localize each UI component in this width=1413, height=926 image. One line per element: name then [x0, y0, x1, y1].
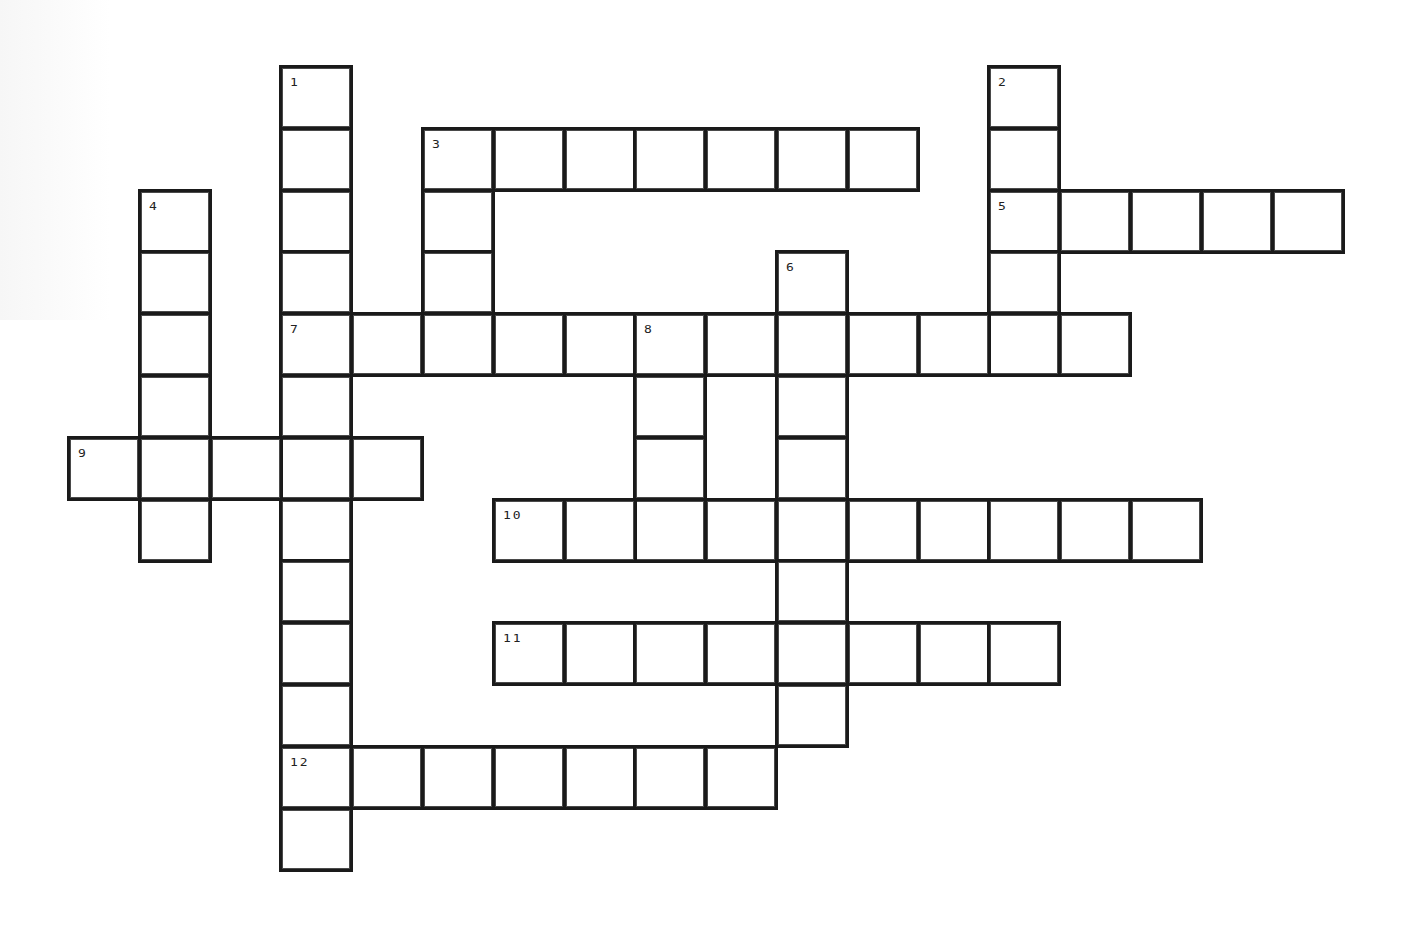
grid-cell[interactable]: 7	[279, 312, 353, 377]
grid-cell[interactable]	[633, 374, 707, 439]
cell-letter-input[interactable]	[990, 315, 1058, 374]
cell-letter-input[interactable]	[920, 624, 988, 683]
grid-cell[interactable]	[846, 498, 920, 563]
cell-letter-input[interactable]	[1132, 192, 1200, 251]
grid-cell[interactable]	[279, 374, 353, 439]
grid-cell[interactable]	[421, 745, 495, 810]
cell-letter-input[interactable]	[1132, 501, 1200, 560]
cell-letter-input[interactable]	[990, 624, 1058, 683]
grid-cell[interactable]	[987, 250, 1061, 315]
cell-letter-input[interactable]	[707, 315, 775, 374]
grid-cell[interactable]	[563, 498, 637, 563]
grid-cell[interactable]	[846, 621, 920, 686]
cell-letter-input[interactable]	[566, 624, 634, 683]
cell-letter-input[interactable]	[282, 624, 350, 683]
grid-cell[interactable]	[492, 127, 566, 192]
grid-cell[interactable]	[633, 621, 707, 686]
cell-letter-input[interactable]	[566, 315, 634, 374]
cell-letter-input[interactable]	[212, 439, 280, 498]
grid-cell[interactable]	[704, 621, 778, 686]
grid-cell[interactable]	[917, 621, 991, 686]
grid-cell[interactable]	[633, 745, 707, 810]
cell-letter-input[interactable]	[636, 130, 704, 189]
cell-letter-input[interactable]	[1061, 192, 1129, 251]
cell-letter-input[interactable]	[849, 624, 917, 683]
grid-cell[interactable]: 3	[421, 127, 495, 192]
grid-cell[interactable]	[987, 498, 1061, 563]
grid-cell[interactable]	[704, 498, 778, 563]
cell-letter-input[interactable]	[990, 501, 1058, 560]
cell-letter-input[interactable]	[778, 686, 846, 745]
cell-letter-input[interactable]	[141, 315, 209, 374]
grid-cell[interactable]	[1271, 189, 1345, 254]
grid-cell[interactable]	[209, 436, 283, 501]
grid-cell[interactable]	[563, 621, 637, 686]
grid-cell[interactable]	[138, 312, 212, 377]
cell-letter-input[interactable]	[566, 501, 634, 560]
grid-cell[interactable]	[350, 436, 424, 501]
grid-cell[interactable]	[492, 312, 566, 377]
grid-cell[interactable]	[775, 559, 849, 624]
grid-cell[interactable]	[775, 683, 849, 748]
cell-letter-input[interactable]	[849, 315, 917, 374]
grid-cell[interactable]	[1129, 189, 1203, 254]
cell-letter-input[interactable]	[282, 501, 350, 560]
grid-cell[interactable]	[279, 498, 353, 563]
grid-cell[interactable]	[775, 312, 849, 377]
grid-cell[interactable]	[704, 745, 778, 810]
grid-cell[interactable]	[987, 621, 1061, 686]
grid-cell[interactable]	[279, 621, 353, 686]
cell-letter-input[interactable]	[141, 253, 209, 312]
grid-cell[interactable]	[421, 189, 495, 254]
grid-cell[interactable]: 4	[138, 189, 212, 254]
cell-letter-input[interactable]	[636, 501, 704, 560]
cell-letter-input[interactable]	[636, 748, 704, 807]
cell-letter-input[interactable]	[636, 439, 704, 498]
grid-cell[interactable]	[987, 127, 1061, 192]
grid-cell[interactable]	[987, 312, 1061, 377]
cell-letter-input[interactable]	[990, 253, 1058, 312]
cell-letter-input[interactable]	[707, 748, 775, 807]
grid-cell[interactable]	[350, 745, 424, 810]
cell-letter-input[interactable]	[920, 501, 988, 560]
grid-cell[interactable]	[1200, 189, 1274, 254]
grid-cell[interactable]	[1058, 498, 1132, 563]
cell-letter-input[interactable]	[424, 748, 492, 807]
grid-cell[interactable]	[138, 498, 212, 563]
grid-cell[interactable]	[775, 436, 849, 501]
grid-cell[interactable]	[1058, 189, 1132, 254]
grid-cell[interactable]	[421, 250, 495, 315]
cell-letter-input[interactable]	[141, 501, 209, 560]
grid-cell[interactable]: 9	[67, 436, 141, 501]
cell-letter-input[interactable]	[990, 130, 1058, 189]
grid-cell[interactable]	[704, 312, 778, 377]
grid-cell[interactable]: 5	[987, 189, 1061, 254]
grid-cell[interactable]	[279, 189, 353, 254]
grid-cell[interactable]: 2	[987, 65, 1061, 130]
cell-letter-input[interactable]	[141, 439, 209, 498]
cell-letter-input[interactable]	[636, 624, 704, 683]
grid-cell[interactable]	[492, 745, 566, 810]
grid-cell[interactable]	[775, 498, 849, 563]
grid-cell[interactable]	[279, 436, 353, 501]
grid-cell[interactable]	[633, 436, 707, 501]
cell-letter-input[interactable]	[707, 624, 775, 683]
cell-letter-input[interactable]	[849, 130, 917, 189]
grid-cell[interactable]	[704, 127, 778, 192]
cell-letter-input[interactable]	[282, 253, 350, 312]
cell-letter-input[interactable]	[1061, 501, 1129, 560]
grid-cell[interactable]: 1	[279, 65, 353, 130]
grid-cell[interactable]	[1058, 312, 1132, 377]
cell-letter-input[interactable]	[566, 130, 634, 189]
grid-cell[interactable]	[633, 127, 707, 192]
grid-cell[interactable]	[775, 127, 849, 192]
cell-letter-input[interactable]	[424, 253, 492, 312]
grid-cell[interactable]	[350, 312, 424, 377]
grid-cell[interactable]: 8	[633, 312, 707, 377]
grid-cell[interactable]	[846, 312, 920, 377]
cell-letter-input[interactable]	[282, 192, 350, 251]
cell-letter-input[interactable]	[778, 130, 846, 189]
cell-letter-input[interactable]	[778, 439, 846, 498]
grid-cell[interactable]	[279, 250, 353, 315]
grid-cell[interactable]	[563, 127, 637, 192]
